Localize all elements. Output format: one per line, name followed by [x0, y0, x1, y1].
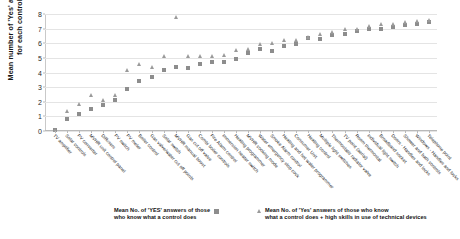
- legend-1-line-2: who know what a control does: [114, 214, 210, 221]
- data-point-square: [198, 62, 202, 66]
- gridline: [45, 87, 437, 88]
- data-point-triangle: [150, 65, 154, 69]
- data-point-square: [101, 103, 105, 107]
- data-point-square: [113, 98, 117, 102]
- data-point-square: [343, 32, 347, 36]
- y-axis-tick-mark: [43, 43, 45, 44]
- data-point-square: [318, 37, 322, 41]
- gridline: [45, 14, 437, 15]
- y-axis-title-line-2: for each control: [15, 0, 24, 86]
- data-point-triangle: [113, 93, 117, 97]
- data-point-square: [89, 107, 93, 111]
- chart-legend: Mean No. of 'YES' answers of those who k…: [0, 201, 442, 239]
- data-point-square: [379, 27, 383, 31]
- data-point-triangle: [330, 30, 334, 34]
- triangle-marker-icon: [257, 209, 261, 213]
- data-point-triangle: [210, 54, 214, 58]
- data-point-triangle: [222, 53, 226, 57]
- data-point-square: [294, 42, 298, 46]
- data-point-square: [162, 68, 166, 72]
- data-point-triangle: [65, 109, 69, 113]
- y-axis-tick-label: 4: [38, 69, 42, 76]
- y-axis-tick-label: 7: [38, 25, 42, 32]
- data-point-square: [258, 47, 262, 51]
- data-point-triangle: [137, 62, 141, 66]
- legend-item-know-control-label: Mean No. of 'YES' answers of those who k…: [114, 207, 210, 222]
- y-axis-tick-mark: [43, 72, 45, 73]
- data-point-triangle: [162, 54, 166, 58]
- data-point-square: [150, 75, 154, 79]
- data-point-triangle: [186, 54, 190, 58]
- data-point-square: [77, 112, 81, 116]
- y-axis-tick-label: 3: [38, 84, 42, 91]
- data-point-triangle: [318, 32, 322, 36]
- legend-1-line-1: Mean No. of 'YES' answers of those: [114, 207, 210, 214]
- legend-2-line-2: what a control does + high skills in use…: [265, 214, 427, 221]
- y-axis-tick-mark: [43, 101, 45, 102]
- data-point-triangle: [306, 35, 310, 39]
- data-point-square: [234, 57, 238, 61]
- gridline: [45, 73, 437, 74]
- y-axis-tick-label: 6: [38, 40, 42, 47]
- data-point-triangle: [77, 102, 81, 106]
- legend-item-high-skills: Mean No. of 'Yes' answers of those who k…: [257, 207, 427, 222]
- gridline: [45, 58, 437, 59]
- y-axis-tick-mark: [43, 131, 45, 132]
- data-point-triangle: [294, 38, 298, 42]
- data-point-triangle: [101, 98, 105, 102]
- data-point-square: [270, 49, 274, 53]
- data-point-triangle: [174, 15, 178, 19]
- data-point-square: [246, 51, 250, 55]
- legend-item-know-control: Mean No. of 'YES' answers of those who k…: [114, 207, 219, 222]
- y-axis-tick-label: 5: [38, 54, 42, 61]
- data-point-square: [367, 27, 371, 31]
- y-axis-tick-label: 2: [38, 98, 42, 105]
- data-point-square: [282, 44, 286, 48]
- data-point-triangle: [427, 18, 431, 22]
- legend-2-line-1: Mean No. of 'Yes' answers of those who k…: [265, 207, 427, 214]
- data-point-triangle: [343, 27, 347, 31]
- gridline: [45, 116, 437, 117]
- x-axis-category-labels: TV amplifierSolar controlsPV converterMV…: [45, 133, 437, 199]
- plot-area: 012345678: [45, 14, 437, 131]
- data-point-triangle: [415, 19, 419, 23]
- legend-item-high-skills-label: Mean No. of 'Yes' answers of those who k…: [265, 207, 427, 222]
- data-point-triangle: [355, 27, 359, 31]
- data-point-triangle: [403, 20, 407, 24]
- y-axis-title-line-1: Mean number of 'Yes' answers: [6, 0, 15, 86]
- data-point-triangle: [89, 93, 93, 97]
- data-point-triangle: [379, 22, 383, 26]
- y-axis-tick-mark: [43, 87, 45, 88]
- y-axis-tick-mark: [43, 57, 45, 58]
- y-axis-tick-label: 1: [38, 113, 42, 120]
- gridline: [45, 43, 437, 44]
- data-point-square: [125, 87, 129, 91]
- y-axis-tick-label: 8: [38, 11, 42, 18]
- data-point-triangle: [367, 24, 371, 28]
- data-point-square: [222, 60, 226, 64]
- data-point-square: [210, 60, 214, 64]
- square-marker-icon: [214, 209, 219, 214]
- data-point-triangle: [270, 41, 274, 45]
- data-point-triangle: [234, 48, 238, 52]
- data-point-triangle: [258, 42, 262, 46]
- data-point-square: [186, 66, 190, 70]
- y-axis-tick-mark: [43, 116, 45, 117]
- y-axis-tick-mark: [43, 28, 45, 29]
- data-point-square: [174, 65, 178, 69]
- data-point-triangle: [391, 22, 395, 26]
- y-axis-tick-mark: [43, 14, 45, 15]
- data-point-triangle: [198, 54, 202, 58]
- data-point-square: [65, 117, 69, 121]
- data-point-triangle: [246, 47, 250, 51]
- y-axis-tick-label: 0: [38, 128, 42, 135]
- y-axis-title: Mean number of 'Yes' answers for each co…: [6, 0, 24, 86]
- data-point-square: [137, 79, 141, 83]
- data-point-triangle: [282, 38, 286, 42]
- data-point-triangle: [125, 68, 129, 72]
